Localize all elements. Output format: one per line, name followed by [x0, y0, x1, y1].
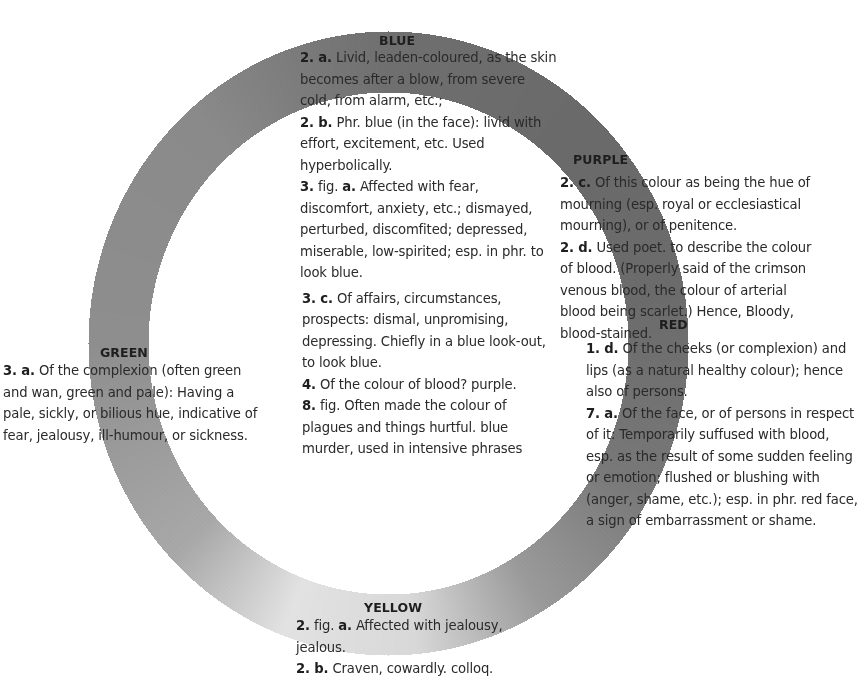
definitions-red: 1. d. Of the cheeks (or complexion) and … [586, 338, 857, 532]
entry-green-3a: 3. a. Of the complexion (often green and… [3, 360, 257, 446]
definitions-green: 3. a. Of the complexion (often green and… [3, 360, 257, 446]
heading-yellow: YELLOW [364, 600, 422, 615]
definitions-blue: 2. a. Livid, leaden-coloured, as the ski… [300, 47, 556, 460]
heading-blue: BLUE [379, 33, 415, 48]
entry-blue-2b: 2. b. Phr. blue (in the face): livid wit… [300, 112, 556, 177]
entry-blue-3c: 3. c. Of affairs, circumstances, prospec… [302, 288, 556, 374]
heading-red: RED [659, 317, 688, 332]
entry-purple-2c: 2. c. Of this colour as being the hue of… [560, 172, 811, 237]
heading-green: GREEN [100, 345, 148, 360]
entry-yellow-2b: 2. b. Craven, cowardly. colloq. [296, 658, 503, 680]
definitions-yellow: 2. fig. a. Affected with jealousy, jealo… [296, 615, 503, 680]
heading-purple: PURPLE [573, 152, 628, 167]
entry-blue-8: 8. fig. Often made the colour of plagues… [302, 395, 556, 460]
entry-red-7a: 7. a. Of the face, or of persons in resp… [586, 403, 857, 532]
entry-blue-2a: 2. a. Livid, leaden-coloured, as the ski… [300, 47, 556, 112]
entry-blue-3a: 3. fig. a. Affected with fear, discomfor… [300, 176, 556, 284]
entry-red-1d: 1. d. Of the cheeks (or complexion) and … [586, 338, 857, 403]
entry-yellow-2a: 2. fig. a. Affected with jealousy, jealo… [296, 615, 503, 658]
entry-blue-4: 4. Of the colour of blood? purple. [302, 374, 556, 396]
